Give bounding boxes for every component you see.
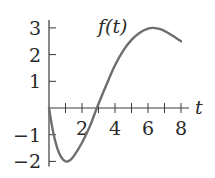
y-tick-label: −2 bbox=[13, 150, 41, 172]
series-line-f bbox=[49, 28, 181, 162]
y-tick-label: 2 bbox=[29, 44, 41, 66]
y-tick-label: 3 bbox=[29, 17, 41, 39]
x-tick-label: 4 bbox=[109, 117, 121, 139]
x-tick-label: 6 bbox=[142, 117, 154, 139]
x-axis-label: t bbox=[195, 96, 203, 118]
y-tick-label: 1 bbox=[29, 70, 41, 92]
series-label: f(t) bbox=[96, 15, 128, 37]
axes bbox=[49, 20, 189, 167]
function-graph: 2468 321−1−2 f(t) t bbox=[0, 0, 215, 178]
y-tick-label: −1 bbox=[13, 124, 41, 146]
x-tick-label: 8 bbox=[175, 117, 187, 139]
